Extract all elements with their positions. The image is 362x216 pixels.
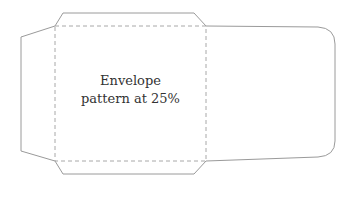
envelope-pattern [0, 0, 362, 216]
label-line-1: Envelope [55, 72, 206, 90]
label-line-2: pattern at 25% [55, 90, 206, 108]
pattern-label: Envelope pattern at 25% [55, 72, 206, 108]
